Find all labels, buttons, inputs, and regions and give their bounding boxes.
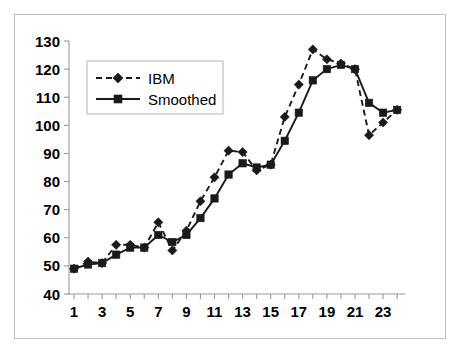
x-axis-tick-label: 9 — [182, 303, 190, 320]
data-point-marker-smoothed — [267, 161, 274, 168]
x-axis-tick-label: 13 — [234, 303, 251, 320]
x-axis-tick-label: 5 — [126, 303, 134, 320]
line-chart: 130120110100908070605040 135791113151719… — [15, 15, 445, 338]
data-point-marker-ibm — [224, 146, 233, 155]
data-point-marker-smoothed — [323, 65, 330, 72]
x-axis-tick-label: 7 — [154, 303, 162, 320]
legend-label-ibm: IBM — [148, 70, 175, 87]
data-point-marker-ibm — [154, 218, 163, 227]
data-point-marker-smoothed — [225, 171, 232, 178]
data-point-marker-smoothed — [183, 231, 190, 238]
x-axis-tick-label: 15 — [262, 303, 279, 320]
data-point-marker-smoothed — [281, 137, 288, 144]
data-point-marker-smoothed — [295, 109, 302, 116]
y-axis-tick-label: 120 — [35, 61, 60, 78]
data-point-marker-ibm — [210, 173, 219, 182]
x-axis-tick-label: 17 — [290, 303, 307, 320]
data-point-marker-smoothed — [70, 265, 77, 272]
data-point-marker-smoothed — [337, 61, 344, 68]
y-axis-tick-label: 110 — [36, 89, 60, 106]
y-axis-tick-label: 70 — [43, 201, 60, 218]
y-axis-tick-label: 60 — [43, 229, 60, 246]
y-axis-tick-label: 80 — [43, 173, 60, 190]
data-point-marker-smoothed — [127, 244, 134, 251]
data-point-marker-ibm — [308, 45, 317, 54]
data-point-marker-ibm — [280, 112, 289, 121]
data-point-marker-smoothed — [197, 214, 204, 221]
legend-marker-square — [114, 95, 122, 103]
chart-legend: IBMSmoothed — [87, 61, 223, 114]
data-point-marker-smoothed — [239, 160, 246, 167]
y-axis-tick-label: 90 — [43, 145, 60, 162]
y-axis-tick-label: 100 — [35, 117, 60, 134]
legend-label-smoothed: Smoothed — [148, 91, 216, 108]
data-point-marker-smoothed — [141, 244, 148, 251]
data-point-marker-smoothed — [365, 99, 372, 106]
x-axis-tick-label: 23 — [375, 303, 392, 320]
data-point-marker-smoothed — [211, 195, 218, 202]
data-point-marker-smoothed — [169, 238, 176, 245]
data-point-marker-smoothed — [155, 231, 162, 238]
x-axis-tick-label: 19 — [319, 303, 336, 320]
data-point-marker-ibm — [196, 197, 205, 206]
data-point-marker-smoothed — [393, 106, 400, 113]
data-point-marker-smoothed — [253, 164, 260, 171]
y-axis-tick-label: 50 — [43, 257, 60, 274]
x-axis-tick-label: 21 — [347, 303, 364, 320]
x-axis-tick-label: 11 — [207, 303, 223, 320]
data-point-marker-smoothed — [98, 259, 105, 266]
data-point-marker-ibm — [294, 80, 303, 89]
data-point-marker-ibm — [112, 240, 121, 249]
x-axis: 1357911131517192123 — [69, 294, 405, 320]
data-point-marker-ibm — [168, 246, 177, 255]
x-axis-tick-label: 1 — [70, 303, 78, 320]
y-axis-tick-label: 130 — [35, 33, 60, 50]
chart-frame: 130120110100908070605040 135791113151719… — [14, 14, 446, 339]
data-point-marker-smoothed — [351, 65, 358, 72]
data-point-marker-smoothed — [84, 261, 91, 268]
data-point-marker-smoothed — [309, 77, 316, 84]
y-axis: 130120110100908070605040 — [35, 33, 69, 303]
y-axis-tick-label: 40 — [43, 286, 60, 303]
x-axis-tick-label: 3 — [98, 303, 106, 320]
data-point-marker-smoothed — [112, 251, 119, 258]
data-point-marker-smoothed — [379, 109, 386, 116]
